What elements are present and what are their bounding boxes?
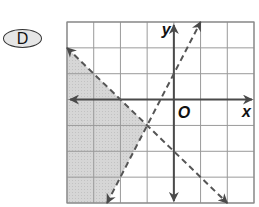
y-axis-label: y [161, 21, 172, 38]
origin-label: O [178, 104, 191, 121]
coordinate-graph: yxO [0, 0, 259, 207]
x-axis-label: x [241, 103, 252, 120]
